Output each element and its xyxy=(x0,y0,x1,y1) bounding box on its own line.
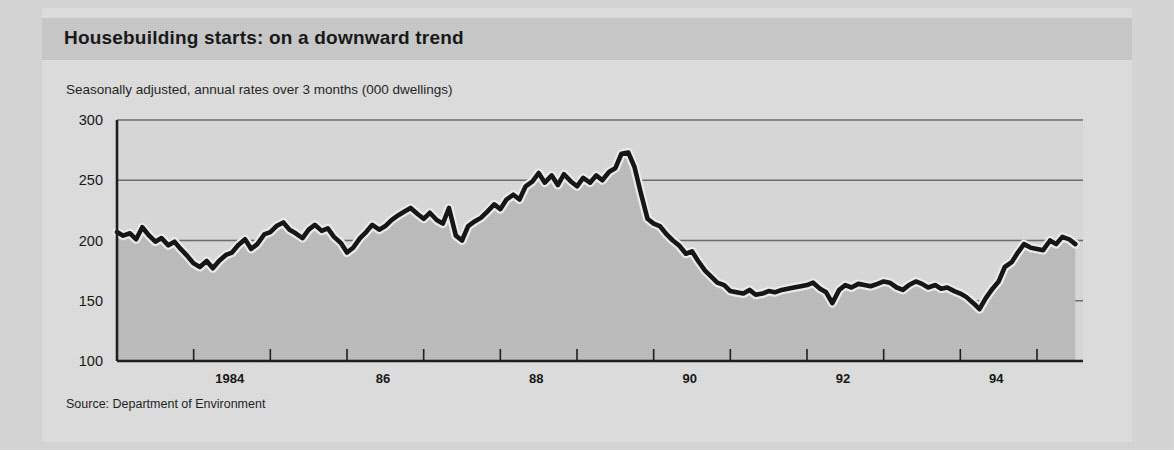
x-tick-label-1988: 88 xyxy=(529,371,543,386)
y-tick-labels: 100150200250300 xyxy=(79,112,103,369)
y-tick-label-200: 200 xyxy=(79,233,103,249)
x-tick-label-1984: 1984 xyxy=(215,371,245,386)
x-tick-label-1986: 86 xyxy=(376,371,390,386)
line-chart-svg: 100150200250300 19848688909294 xyxy=(0,0,1174,450)
y-tick-label-150: 150 xyxy=(79,293,103,309)
x-tick-label-1990: 90 xyxy=(682,371,696,386)
y-tick-label-300: 300 xyxy=(79,112,103,128)
y-tick-label-100: 100 xyxy=(79,353,103,369)
y-tick-label-250: 250 xyxy=(79,172,103,188)
x-tick-label-1992: 92 xyxy=(836,371,850,386)
x-tick-labels: 19848688909294 xyxy=(215,371,1004,386)
chart-figure: Housebuilding starts: on a downward tren… xyxy=(0,0,1174,450)
x-tick-label-1994: 94 xyxy=(989,371,1004,386)
plot-area: 100150200250300 19848688909294 xyxy=(0,0,1174,450)
